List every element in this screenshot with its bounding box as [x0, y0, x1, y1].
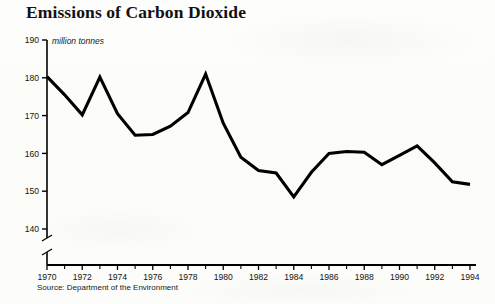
- x-axis-tick-label: 1994: [460, 272, 479, 282]
- x-axis-tick-label: 1974: [108, 272, 127, 282]
- x-axis: 1970197219741976197819801982198419861988…: [37, 265, 479, 282]
- chart-figure: Emissions of Carbon Dioxide million tonn…: [0, 0, 495, 304]
- chart-plot-area: 190180170160150140 197019721974197619781…: [0, 0, 495, 304]
- y-axis-tick-label: 150: [25, 186, 40, 196]
- y-axis: 190180170160150140: [25, 35, 52, 265]
- y-axis-tick-label: 140: [25, 224, 40, 234]
- source-note: Source: Department of the Environment: [37, 283, 178, 292]
- x-axis-tick-label: 1990: [390, 272, 409, 282]
- co2-emissions-line: [47, 74, 470, 197]
- x-axis-tick-label: 1992: [425, 272, 444, 282]
- x-axis-tick-label: 1982: [249, 272, 268, 282]
- x-axis-tick-label: 1980: [214, 272, 233, 282]
- data-series-co2-emissions: [47, 74, 470, 197]
- x-axis-tick-label: 1978: [178, 272, 197, 282]
- x-axis-tick-label: 1972: [73, 272, 92, 282]
- x-axis-tick-label: 1970: [37, 272, 56, 282]
- y-axis-tick-label: 170: [25, 111, 40, 121]
- x-axis-tick-label: 1984: [284, 272, 303, 282]
- y-axis-tick-label: 160: [25, 149, 40, 159]
- y-axis-tick-label: 180: [25, 73, 40, 83]
- y-axis-tick-label: 190: [25, 35, 40, 45]
- x-axis-tick-label: 1988: [355, 272, 374, 282]
- x-axis-tick-label: 1976: [143, 272, 162, 282]
- x-axis-tick-label: 1986: [319, 272, 338, 282]
